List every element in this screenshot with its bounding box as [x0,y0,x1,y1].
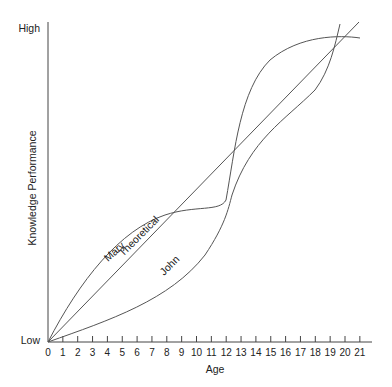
x-tick-label: 9 [179,347,185,358]
theoretical-label: Theoretical [116,213,161,258]
mary-curve [48,37,360,342]
x-tick-labels: 0123456789101112131415161718192021 [45,347,366,358]
x-tick-label: 5 [119,347,125,358]
x-tick-label: 18 [310,347,322,358]
x-ticks [63,336,360,342]
y-axis-title: Knowledge Performance [26,130,38,245]
john-label: John [157,253,182,278]
x-tick-label: 4 [105,347,111,358]
x-tick-label: 19 [325,347,337,358]
x-tick-label: 17 [295,347,307,358]
x-tick-label: 7 [149,347,155,358]
x-tick-label: 3 [90,347,96,358]
x-tick-label: 21 [354,347,366,358]
x-tick-label: 0 [45,347,51,358]
x-tick-label: 14 [250,347,262,358]
x-axis-title: Age [206,363,225,375]
y-label-high: High [18,22,40,34]
theoretical-line [48,22,359,342]
chart-canvas: High Low Knowledge Performance 012345678… [0,0,392,387]
x-tick-label: 20 [339,347,351,358]
x-tick-label: 13 [235,347,247,358]
x-tick-label: 6 [134,347,140,358]
x-tick-label: 1 [60,347,66,358]
x-tick-label: 8 [164,347,170,358]
x-tick-label: 11 [206,347,217,358]
x-tick-label: 2 [75,347,81,358]
x-tick-label: 16 [280,347,292,358]
x-tick-label: 12 [221,347,233,358]
x-tick-label: 10 [191,347,203,358]
x-tick-label: 15 [265,347,277,358]
y-label-low: Low [21,334,41,346]
john-curve [48,24,340,342]
